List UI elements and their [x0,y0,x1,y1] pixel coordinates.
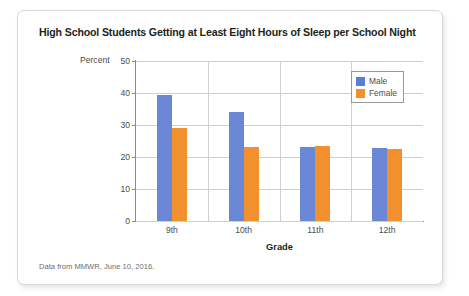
y-tick-label: 30 [106,120,130,130]
bar-male-11th [300,147,315,221]
bar-female-12th [387,149,402,221]
legend-label-female: Female [369,88,397,98]
legend-item-female: Female [356,87,397,99]
bar-male-12th [372,148,387,221]
bar-female-10th [244,147,259,221]
chart-title: High School Students Getting at Least Ei… [39,26,429,38]
gridline-x [280,61,281,221]
legend-label-male: Male [369,76,387,86]
x-tick-label: 12th [351,225,423,235]
x-axis-title: Grade [136,242,423,252]
y-tick-mark [132,93,136,94]
y-tick-label: 0 [106,216,130,226]
y-tick-label: 10 [106,184,130,194]
gridline-x [208,61,209,221]
gridline-y [136,221,423,222]
chart-card: High School Students Getting at Least Ei… [17,10,443,285]
x-tick-label: 9th [136,225,208,235]
x-tick-label: 11th [279,225,351,235]
bar-male-10th [229,112,244,221]
legend-swatch-female-icon [356,89,365,98]
x-tick-label: 10th [208,225,280,235]
bar-female-9th [172,128,187,221]
y-tick-label: 40 [106,88,130,98]
legend-swatch-male-icon [356,77,365,86]
chart-legend: Male Female [351,71,404,103]
y-tick-mark [132,189,136,190]
source-note: Data from MMWR, June 10, 2016. [39,262,154,271]
y-tick-mark [132,61,136,62]
y-tick-label: 20 [106,152,130,162]
bar-female-11th [315,146,330,221]
y-tick-label: 50 [106,56,130,66]
y-tick-mark [132,125,136,126]
y-tick-mark [132,221,136,222]
legend-item-male: Male [356,75,397,87]
bar-male-9th [157,95,172,221]
y-tick-mark [132,157,136,158]
